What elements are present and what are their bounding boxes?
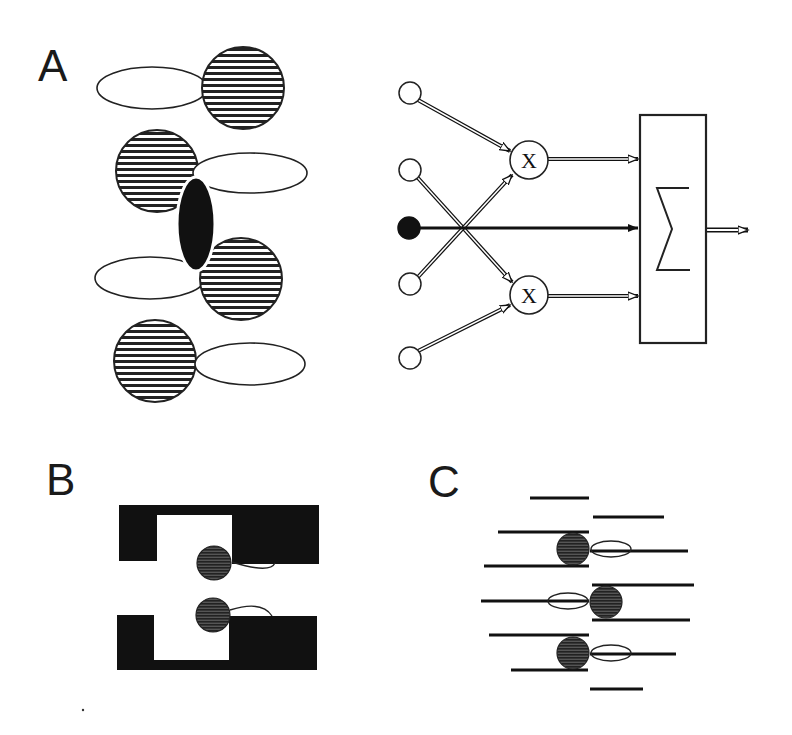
subunit-ellipse [230, 606, 272, 616]
panel-a-receptive-field [95, 47, 307, 402]
multiplier-unit-lower: X [510, 276, 548, 314]
panel-label-a: A [38, 44, 67, 88]
input-node-4 [399, 273, 421, 295]
dark-subunit [590, 586, 622, 618]
dark-subunit [557, 533, 589, 565]
multiplier-symbol: X [521, 283, 537, 308]
multiplier-unit-upper: X [510, 141, 548, 179]
summation-unit [640, 115, 706, 343]
hatched-subunit [114, 320, 196, 402]
input-node-center-filled [398, 217, 420, 239]
panel-label-b: B [46, 458, 75, 502]
dark-subunit [557, 637, 589, 669]
multiplier-symbol: X [521, 148, 537, 173]
speck [82, 709, 84, 711]
subunit-ellipse [591, 541, 631, 557]
gray-subunit [197, 546, 231, 580]
center-black-ellipse [177, 177, 215, 271]
figure-canvas: X X [0, 0, 792, 735]
input-node-1 [399, 82, 421, 104]
input-node-2 [399, 159, 421, 181]
hatched-subunit [202, 47, 284, 129]
panel-b [82, 505, 319, 711]
gray-subunit [196, 598, 230, 632]
subunit-ellipse [193, 153, 307, 193]
subunit-ellipse [195, 343, 305, 385]
panel-a-circuit: X X [398, 82, 748, 369]
input-node-5 [399, 347, 421, 369]
panel-label-c: C [428, 460, 460, 504]
subunit-ellipse [97, 67, 207, 109]
